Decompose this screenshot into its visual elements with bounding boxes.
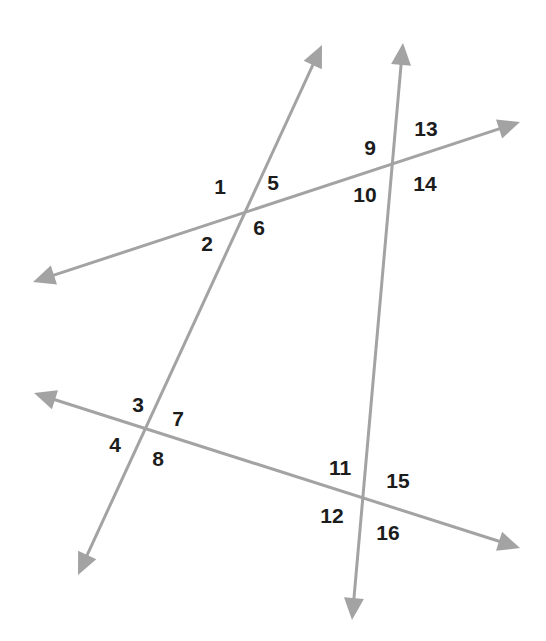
angle-label-15: 15 xyxy=(386,469,410,492)
angle-label-5: 5 xyxy=(267,171,279,194)
angle-label-3: 3 xyxy=(132,393,144,416)
angle-diagram: 12345678910111213141516 xyxy=(0,0,546,641)
angle-label-4: 4 xyxy=(109,433,121,456)
angle-label-13: 13 xyxy=(414,117,437,140)
angle-label-9: 9 xyxy=(364,136,376,159)
angle-label-7: 7 xyxy=(172,407,184,430)
angle-label-6: 6 xyxy=(253,216,265,239)
angle-label-10: 10 xyxy=(353,183,376,206)
angle-label-8: 8 xyxy=(152,447,164,470)
angle-label-16: 16 xyxy=(376,521,399,544)
angle-label-11: 11 xyxy=(329,456,352,479)
angle-label-12: 12 xyxy=(320,504,343,527)
angle-label-14: 14 xyxy=(413,172,437,195)
angle-label-1: 1 xyxy=(214,175,226,198)
angle-label-2: 2 xyxy=(201,232,213,255)
background xyxy=(0,0,546,641)
